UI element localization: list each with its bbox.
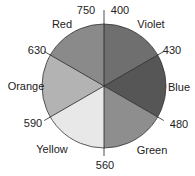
- color-label-orange: Orange: [8, 80, 45, 92]
- wavelength-label-590: 590: [24, 117, 42, 129]
- wavelength-label-750: 750: [77, 4, 95, 16]
- color-label-yellow: Yellow: [36, 143, 67, 155]
- wavelength-label-400: 400: [111, 4, 129, 16]
- color-label-violet: Violet: [137, 18, 164, 30]
- color-label-blue: Blue: [168, 81, 190, 93]
- color-wheel-diagram: 750400430480560590630 VioletBlueGreenYel…: [0, 0, 195, 176]
- wavelength-label-430: 430: [163, 44, 181, 56]
- wavelength-label-480: 480: [170, 118, 188, 130]
- color-label-green: Green: [137, 144, 168, 156]
- wavelength-label-630: 630: [28, 44, 46, 56]
- wavelength-label-560: 560: [96, 159, 114, 171]
- color-label-red: Red: [52, 18, 72, 30]
